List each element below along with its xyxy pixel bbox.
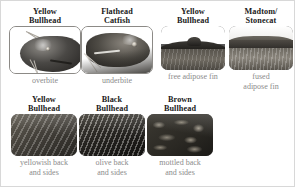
photo-content: [82, 27, 152, 73]
yellow-bullhead-head-photo[interactable]: [9, 26, 81, 74]
flank-sheen: [11, 114, 77, 156]
yellow-bullhead-flank-photo[interactable]: [11, 114, 77, 156]
photo-content: [10, 27, 80, 73]
card-title: Yellow Bullhead: [161, 7, 225, 25]
card-caption: olive back and sides: [79, 158, 145, 177]
card-madtom-stonecat-fused-adipose-fin[interactable]: Madtom/ Stonecat fused adipose fin: [229, 7, 293, 91]
card-brown-bullhead-flank[interactable]: Brown Bullhead mottled back and sides: [147, 95, 213, 177]
card-yellow-bullhead-flank[interactable]: Yellow Bullhead yellowish back and sides: [11, 95, 77, 177]
fish-flank: [161, 49, 225, 70]
card-caption: free adipose fin: [161, 72, 225, 81]
flank-sheen: [79, 114, 145, 156]
brown-bullhead-flank-photo[interactable]: [147, 114, 213, 156]
flathead-catfish-head-photo[interactable]: [81, 26, 153, 74]
card-title: Yellow Bullhead: [9, 7, 81, 25]
black-bullhead-flank-photo[interactable]: [79, 114, 145, 156]
card-title: Madtom/ Stonecat: [229, 7, 293, 25]
card-caption: yellowish back and sides: [11, 158, 77, 177]
card-black-bullhead-flank[interactable]: Black Bullhead olive back and sides: [79, 95, 145, 177]
card-caption: mottled back and sides: [147, 158, 213, 177]
card-title: Black Bullhead: [79, 95, 145, 113]
flank-sheen: [147, 114, 213, 156]
card-caption: overbite: [9, 76, 81, 85]
lower-jaw-shade: [82, 27, 152, 73]
card-caption: fused adipose fin: [229, 72, 293, 91]
catfish-identification-figure: Yellow Bullhead overbite Flathead Catfis…: [0, 0, 295, 187]
madtom-stonecat-adipose-fin-photo[interactable]: [229, 26, 293, 70]
card-flathead-catfish-underbite[interactable]: Flathead Catfish underbite: [81, 7, 153, 86]
yellow-bullhead-adipose-fin-photo[interactable]: [161, 26, 225, 70]
free-adipose-fin: [187, 37, 201, 46]
card-title: Yellow Bullhead: [11, 95, 77, 113]
card-title: Flathead Catfish: [81, 7, 153, 25]
fish-flank: [229, 48, 293, 70]
card-caption: underbite: [81, 76, 153, 85]
card-yellow-bullhead-free-adipose-fin[interactable]: Yellow Bullhead free adipose fin: [161, 7, 225, 82]
card-title: Brown Bullhead: [147, 95, 213, 113]
card-yellow-bullhead-overbite[interactable]: Yellow Bullhead overbite: [9, 7, 81, 86]
